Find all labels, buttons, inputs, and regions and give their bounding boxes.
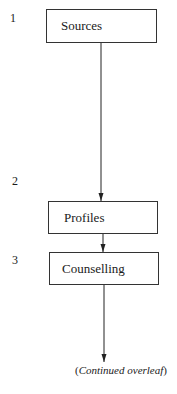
step-box-profiles: Profiles (48, 201, 158, 234)
step-box-sources: Sources (46, 9, 157, 43)
step-number-2: 2 (12, 175, 18, 187)
caption-close-paren: ) (163, 364, 167, 376)
step-label-counselling: Counselling (62, 261, 125, 277)
connector-arrows (0, 0, 177, 394)
continued-caption: (Continued overleaf) (75, 364, 167, 376)
caption-text: Continued overleaf (79, 364, 164, 376)
step-number-1: 1 (10, 12, 16, 24)
step-number-3: 3 (12, 254, 18, 266)
step-label-profiles: Profiles (64, 210, 104, 226)
step-box-counselling: Counselling (49, 252, 159, 285)
step-label-sources: Sources (61, 18, 102, 34)
